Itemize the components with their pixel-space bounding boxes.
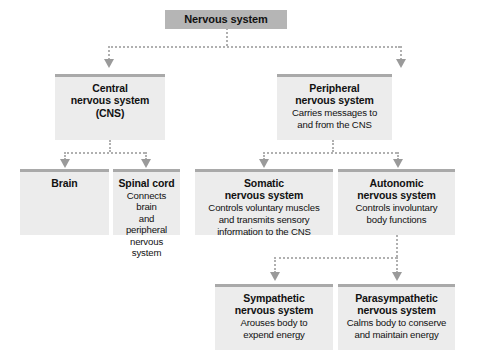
connector-autonomic-bus: [274, 257, 397, 259]
arrowhead-brain: [60, 159, 70, 168]
connector-root-to-peripheral: [400, 46, 402, 60]
node-sympathetic-title-line2: nervous system: [219, 304, 329, 316]
node-sympathetic-desc-line2: expend energy: [219, 329, 329, 340]
node-somatic-desc-line2: and transmits sensory: [199, 214, 329, 225]
node-peripheral-nervous-system: Peripheral nervous system Carries messag…: [277, 74, 392, 140]
node-parasympathetic-desc-line1: Calms body to conserve: [342, 317, 451, 328]
arrowhead-central: [104, 59, 114, 68]
node-somatic-desc-line1: Controls voluntary muscles: [199, 202, 329, 213]
arrowhead-sympathetic: [270, 272, 280, 281]
node-autonomic-title-line2: nervous system: [342, 189, 451, 201]
connector-root-stem: [226, 28, 228, 46]
node-somatic-title-line2: nervous system: [199, 189, 329, 201]
node-parasympathetic-title-line1: Parasympathetic: [342, 292, 451, 304]
node-spinal-cord-title: Spinal cord: [117, 177, 176, 189]
connector-autonomic-stem: [396, 235, 398, 257]
arrowhead-somatic: [259, 159, 269, 168]
node-autonomic-title-line1: Autonomic: [342, 177, 451, 189]
node-brain-title: Brain: [24, 177, 105, 189]
node-spinal-cord: Spinal cord Connects brain and periphera…: [113, 169, 180, 235]
node-somatic-desc-line3: information to the CNS: [199, 226, 329, 237]
connector-autonomic-to-parasympathetic: [396, 257, 398, 273]
connector-root-bus: [108, 46, 400, 48]
node-peripheral-title-line1: Peripheral: [281, 82, 388, 94]
node-sympathetic-title-line1: Sympathetic: [219, 292, 329, 304]
node-peripheral-desc-line2: and from the CNS: [281, 119, 388, 130]
node-spinal-cord-desc-line3: nervous system: [117, 236, 176, 259]
node-nervous-system: Nervous system: [165, 10, 287, 29]
connector-autonomic-to-sympathetic: [274, 257, 276, 273]
node-peripheral-title-line2: nervous system: [281, 94, 388, 106]
arrowhead-peripheral: [396, 59, 406, 68]
node-autonomic-nervous-system: Autonomic nervous system Controls involu…: [338, 169, 455, 235]
connector-central-bus: [64, 152, 145, 154]
node-brain: Brain: [20, 169, 109, 235]
node-sympathetic-nervous-system: Sympathetic nervous system Arouses body …: [215, 284, 333, 350]
node-parasympathetic-nervous-system: Parasympathetic nervous system Calms bod…: [338, 284, 455, 350]
node-somatic-nervous-system: Somatic nervous system Controls voluntar…: [195, 169, 333, 235]
node-parasympathetic-title-line2: nervous system: [342, 304, 451, 316]
node-central-title-line3: (CNS): [59, 107, 161, 119]
node-autonomic-desc-line2: body functions: [342, 214, 451, 225]
node-autonomic-desc-line1: Controls involuntary: [342, 202, 451, 213]
node-spinal-cord-desc-line2: and peripheral: [117, 213, 176, 236]
node-central-title-line1: Central: [59, 82, 161, 94]
arrowhead-parasympathetic: [392, 272, 402, 281]
node-spinal-cord-desc-line1: Connects brain: [117, 190, 176, 213]
node-nervous-system-title: Nervous system: [184, 13, 268, 26]
arrowhead-spinal-cord: [141, 159, 151, 168]
node-parasympathetic-desc-line2: and maintain energy: [342, 329, 451, 340]
connector-peripheral-stem: [332, 140, 334, 152]
arrowhead-autonomic: [393, 159, 403, 168]
connector-root-to-central: [108, 46, 110, 60]
node-central-title-line2: nervous system: [59, 94, 161, 106]
node-somatic-title-line1: Somatic: [199, 177, 329, 189]
connector-peripheral-bus: [263, 152, 397, 154]
node-central-nervous-system: Central nervous system (CNS): [55, 74, 165, 140]
node-sympathetic-desc-line1: Arouses body to: [219, 317, 329, 328]
nervous-system-diagram: Nervous system Central nervous system (C…: [0, 0, 477, 354]
connector-central-stem: [109, 140, 111, 152]
node-peripheral-desc-line1: Carries messages to: [281, 107, 388, 118]
